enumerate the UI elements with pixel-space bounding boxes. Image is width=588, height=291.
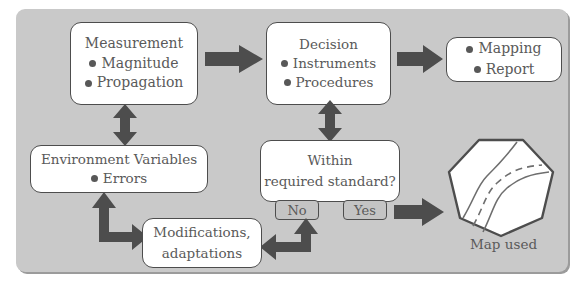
arrow-decision-within [315,100,345,142]
branch-no-label: No [287,203,306,218]
box-decision: Decision Instruments Procedures [266,22,391,105]
within-line-1: Within [307,152,352,169]
map-label-line-2: used [505,236,537,252]
box-modifications: Modifications, adaptations [142,218,262,268]
branch-yes-label: Yes [354,203,376,218]
map-label: Map used [470,236,536,253]
bullet-icon [89,60,96,67]
decision-item-0: Instruments [281,55,376,72]
bullet-icon [466,46,473,53]
output-item-1: Report [474,61,535,79]
map-heptagon-graphic [443,136,559,240]
bullet-icon [85,80,92,87]
bullet-icon [91,175,98,182]
diagram-canvas: Measurement Magnitude Propagation Decisi… [0,0,588,291]
box-within-standard: Within required standard? [260,140,400,202]
arrow-no-to-modifications [258,218,320,262]
measurement-item-1: Propagation [85,74,184,92]
box-environment-variables: Environment Variables Errors [30,145,208,193]
branch-no-box[interactable]: No [275,200,319,220]
decision-heading: Decision [299,36,358,53]
arrow-yes-to-map [394,198,446,226]
box-measurement: Measurement Magnitude Propagation [70,22,198,105]
branch-yes-box[interactable]: Yes [343,200,387,220]
box-output: Mapping Report [446,37,562,82]
environment-item-0: Errors [91,170,147,187]
modifications-line-1: Modifications, [153,224,250,241]
arrow-measurement-environment [110,104,140,146]
arrow-environment-to-modifications [88,192,150,252]
arrow-decision-to-output [397,44,445,74]
output-item-0: Mapping [466,40,541,58]
measurement-item-0: Magnitude [89,55,178,73]
modifications-line-2: adaptations [162,245,242,262]
map-label-line-1: Map [470,236,501,252]
bullet-icon [284,79,291,86]
arrow-measurement-to-decision [205,44,265,74]
within-line-2: required standard? [264,173,396,190]
bullet-icon [474,66,481,73]
measurement-heading: Measurement [85,35,183,53]
bullet-icon [281,60,288,67]
decision-item-1: Procedures [284,74,374,91]
environment-heading: Environment Variables [41,151,197,168]
